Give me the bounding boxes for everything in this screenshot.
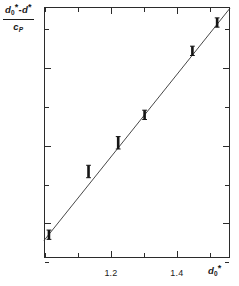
x-axis-tick	[45, 8, 46, 12]
y-axis-tick	[45, 262, 49, 263]
y-axis-title: d0*-d* cP	[3, 4, 34, 34]
y-axis-tick	[223, 68, 229, 69]
x-axis-tick	[210, 8, 211, 12]
x-axis-tick	[45, 253, 46, 257]
plot-frame: 00.20.41.21.4	[44, 7, 230, 258]
x-axis-tick-label: 1.4	[170, 269, 183, 278]
y-axis-title-denominator: cP	[3, 20, 34, 35]
y-axis-tick	[225, 29, 229, 30]
y-axis-tick	[225, 107, 229, 108]
y-den-subP: P	[19, 25, 24, 32]
y-axis-tick	[45, 107, 49, 108]
y-num-star2: *	[28, 2, 32, 12]
figure-scatter-plot: d0*-d* cP d0* 00.20.41.21.4	[0, 0, 239, 286]
y-axis-tick	[223, 223, 229, 224]
x-axis-tick	[177, 8, 178, 14]
y-axis-tick	[225, 262, 229, 263]
x-axis-tick	[177, 251, 178, 257]
y-axis-tick	[45, 185, 49, 186]
x-axis-tick	[78, 8, 79, 12]
x-title-star: *	[218, 263, 222, 273]
x-axis-tick-label: 1.2	[104, 269, 117, 278]
y-axis-title-numerator: d0*-d*	[3, 4, 34, 20]
x-axis-title: d0*	[208, 266, 222, 279]
y-axis-tick	[45, 68, 51, 69]
x-axis-tick	[111, 251, 112, 257]
x-axis-tick	[111, 8, 112, 14]
y-axis-tick	[45, 223, 51, 224]
y-num-minus-d: -d	[19, 4, 28, 15]
y-axis-tick	[45, 146, 51, 147]
x-axis-tick	[144, 253, 145, 257]
x-axis-tick	[210, 253, 211, 257]
y-axis-tick	[223, 146, 229, 147]
y-axis-tick	[225, 185, 229, 186]
y-axis-tick	[45, 29, 49, 30]
x-axis-tick	[78, 253, 79, 257]
x-axis-tick	[144, 8, 145, 12]
